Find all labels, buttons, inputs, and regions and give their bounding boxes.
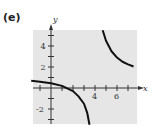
- chart: 4624-2 x y: [0, 0, 154, 131]
- y-axis-arrow-icon: [49, 24, 53, 30]
- y-tick-label: -2: [36, 105, 44, 114]
- y-tick-label: 4: [41, 42, 46, 51]
- y-tick-label: 2: [41, 63, 46, 72]
- y-axis-label: y: [52, 15, 58, 24]
- x-axis-label: x: [143, 84, 148, 93]
- x-tick-label: 4: [92, 92, 97, 101]
- x-tick-label: 6: [114, 92, 119, 101]
